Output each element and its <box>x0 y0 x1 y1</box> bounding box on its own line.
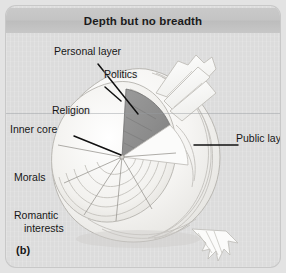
figure-panel: Depth but no breadth <box>6 6 280 267</box>
label-inner-core: Inner core <box>10 123 57 136</box>
figure-onion-depth-no-breadth: Depth but no breadth <box>0 0 286 273</box>
label-romantic-interests-line2: interests <box>24 222 64 235</box>
figure-title: Depth but no breadth <box>84 15 202 27</box>
label-morals: Morals <box>14 171 46 184</box>
label-religion: Religion <box>52 104 90 117</box>
onion-body <box>52 55 238 261</box>
label-public-layer: Public layer <box>236 132 280 145</box>
onion-shadow <box>76 230 200 248</box>
panel-label: (b) <box>16 244 30 257</box>
label-politics: Politics <box>104 68 137 81</box>
inner-core-point <box>120 155 124 159</box>
background-rule <box>6 113 280 114</box>
figure-title-bar: Depth but no breadth <box>6 8 280 33</box>
label-personal-layer: Personal layer <box>54 45 121 58</box>
label-romantic-interests-line1: Romantic <box>14 209 58 222</box>
